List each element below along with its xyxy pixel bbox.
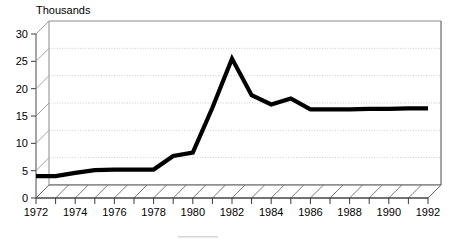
x-axis-label-1986: 1986 xyxy=(298,206,322,218)
y-axis-label-25: 25 xyxy=(16,55,28,67)
line-chart: Thousands 051015202530 197219 xyxy=(0,0,449,243)
y-tick-depth-25 xyxy=(36,48,49,61)
y-axis-label-10: 10 xyxy=(16,137,28,149)
y-axis-label-15: 15 xyxy=(16,110,28,122)
x-axis-label-1978: 1978 xyxy=(141,206,165,218)
y-axis-label-5: 5 xyxy=(22,165,28,177)
y-tick-depth-30 xyxy=(36,21,49,34)
x-axis-label-1972: 1972 xyxy=(24,206,48,218)
y-tick-depth-20 xyxy=(36,76,49,89)
x-axis-label-1974: 1974 xyxy=(63,206,87,218)
chart-title: Thousands xyxy=(36,4,91,16)
x-axis-label-1992: 1992 xyxy=(416,206,440,218)
y-tick-group xyxy=(31,21,49,198)
x-axis-label-1990: 1990 xyxy=(377,206,401,218)
y-axis-label-20: 20 xyxy=(16,83,28,95)
x-axis-labels: 1972197419761978198019821984198619881990… xyxy=(24,206,440,218)
x-tick-group xyxy=(36,198,428,204)
scan-artifact xyxy=(178,236,218,238)
y-tick-depth-15 xyxy=(36,103,49,116)
y-axis-labels: 051015202530 xyxy=(16,28,28,204)
x-axis-label-1984: 1984 xyxy=(259,206,283,218)
x-axis-label-1980: 1980 xyxy=(181,206,205,218)
x-axis-label-1982: 1982 xyxy=(220,206,244,218)
y-tick-depth-10 xyxy=(36,130,49,143)
chart-container: Thousands 051015202530 197219 xyxy=(0,0,449,243)
floor-3d xyxy=(36,185,441,198)
y-tick-depth-5 xyxy=(36,158,49,171)
y-axis-label-0: 0 xyxy=(22,192,28,204)
x-axis-label-1988: 1988 xyxy=(337,206,361,218)
x-axis-label-1976: 1976 xyxy=(102,206,126,218)
y-axis-label-30: 30 xyxy=(16,28,28,40)
